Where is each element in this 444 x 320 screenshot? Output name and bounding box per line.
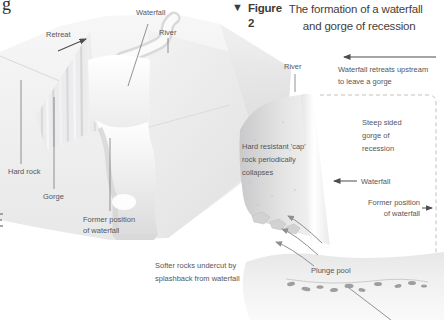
figure-caption: ▼ Figure 2 The formation of a waterfall …: [232, 1, 444, 35]
label-river-section: River: [284, 62, 302, 73]
steep-sided-line1: Steep sided: [362, 116, 402, 129]
label-cap-rock: Hard resistant 'cap' rock periodically c…: [242, 140, 306, 179]
figure-marker-icon: ▼: [232, 1, 243, 14]
former-position-sec-line2: of waterfall: [352, 208, 420, 219]
cap-rock-line1: Hard resistant 'cap': [242, 140, 306, 153]
figure-title: The formation of a waterfall and gorge o…: [289, 1, 444, 35]
softer-rocks-line1: Softer rocks undercut by: [155, 259, 240, 272]
steep-sided-line3: recession: [362, 142, 402, 155]
clipped-heading-letter: g: [2, 0, 11, 15]
label-former-position-section: Former position of waterfall: [352, 197, 420, 219]
label-waterfall-section: Waterfall: [361, 177, 390, 188]
steep-sided-line2: gorge of: [362, 129, 402, 142]
label-plunge-pool: Plunge pool: [311, 266, 351, 277]
figure-number: Figure 2: [248, 1, 282, 31]
plunge-pool-ground: [243, 252, 444, 320]
label-waterfall: Waterfall: [136, 8, 165, 19]
former-position-line2: of waterfall: [83, 225, 135, 236]
label-gorge: Gorge: [43, 192, 64, 203]
label-river: River: [159, 28, 177, 39]
label-former-position: Former position of waterfall: [83, 214, 135, 236]
softer-rocks-line2: splashback from waterfall: [155, 272, 240, 285]
former-position-sec-line1: Former position: [352, 197, 420, 208]
label-steep-sided-gorge: Steep sided gorge of recession: [362, 116, 402, 155]
label-retreat-note: Waterfall retreats upstream to leave a g…: [338, 64, 428, 88]
waterfall-face: [88, 55, 150, 128]
cap-rock-line3: collapses: [242, 166, 306, 179]
cap-rock-line2: rock periodically: [242, 153, 306, 166]
label-softer-rocks: Softer rocks undercut by splashback from…: [155, 259, 240, 285]
label-retreat: Retreat: [46, 30, 71, 41]
figure-2-waterfall-diagram: g ▼ Figure 2 The formation of a waterfal…: [0, 0, 444, 320]
label-hard-rock: Hard rock: [8, 167, 41, 178]
figure-title-line1: The formation of a waterfall: [289, 3, 423, 15]
retreat-note-line1: Waterfall retreats upstream: [338, 64, 428, 76]
figure-title-line2: and gorge of recession: [303, 20, 416, 32]
retreat-note-line2: to leave a gorge: [338, 76, 428, 88]
former-position-line1: Former position: [83, 214, 135, 225]
